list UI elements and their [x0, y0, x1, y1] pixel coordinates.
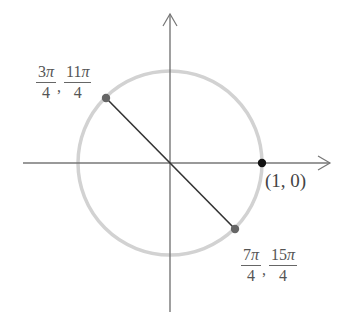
numerator: 7	[243, 246, 251, 263]
point-3pi-4	[102, 94, 110, 102]
denominator: 4	[42, 83, 50, 101]
denominator: 4	[74, 83, 82, 101]
numerator: 11	[66, 63, 81, 80]
numerator: 3	[38, 63, 46, 80]
fraction: 3π 4	[36, 64, 56, 101]
pi-symbol: π	[46, 63, 54, 80]
label-upper-left: 3π 4 , 11π 4	[36, 64, 91, 101]
comma: ,	[57, 78, 61, 96]
numerator: 15	[271, 246, 287, 263]
fraction: 7π 4	[241, 247, 261, 284]
point-7pi-4	[231, 225, 239, 233]
label-1-0: (1, 0)	[265, 170, 306, 192]
pi-symbol: π	[287, 246, 295, 263]
denominator: 4	[279, 266, 287, 284]
fraction: 15π 4	[269, 247, 297, 284]
point-1-0	[258, 159, 266, 167]
pi-symbol: π	[251, 246, 259, 263]
label-lower-right: 7π 4 , 15π 4	[241, 247, 297, 284]
comma: ,	[262, 261, 266, 279]
fraction: 11π 4	[64, 64, 91, 101]
denominator: 4	[247, 266, 255, 284]
unit-circle-diagram: 3π 4 , 11π 4 7π 4 , 15π 4 (1, 0)	[0, 0, 345, 318]
pi-symbol: π	[81, 63, 89, 80]
